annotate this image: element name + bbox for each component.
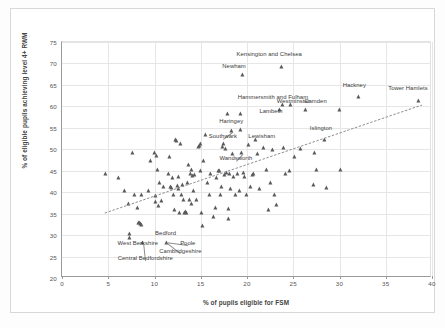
data-point-marker <box>176 187 180 191</box>
data-point-marker <box>416 99 420 103</box>
point-label: Kensington and Chelsea <box>237 51 302 57</box>
gridline-vertical <box>108 42 109 276</box>
data-point-marker <box>215 176 219 180</box>
data-point-marker <box>132 193 136 197</box>
scatter-chart: Kensington and ChelseaNewhamHackneyTower… <box>0 0 445 328</box>
data-point-marker <box>280 64 284 68</box>
point-label: Lewisham <box>248 133 275 139</box>
data-point-marker <box>248 184 252 188</box>
data-point-marker <box>168 154 172 158</box>
x-tick-label: 15 <box>197 280 204 287</box>
data-point-marker <box>221 142 225 146</box>
data-point-marker <box>156 167 160 171</box>
data-point-marker <box>179 142 183 146</box>
point-label: Wandsworth <box>219 155 252 161</box>
point-label: Bedford <box>155 230 176 236</box>
gridline-horizontal <box>62 85 430 86</box>
data-point-marker <box>281 146 285 150</box>
data-point-marker <box>252 172 256 176</box>
point-label: Hackney <box>343 82 366 88</box>
data-point-marker <box>202 159 206 163</box>
data-point-marker <box>235 172 239 176</box>
x-tick-mark <box>62 276 63 279</box>
data-point-marker <box>233 193 237 197</box>
data-point-marker <box>218 193 222 197</box>
data-point-marker <box>292 154 296 158</box>
data-point-marker <box>194 197 198 201</box>
y-tick-label: 45 <box>50 167 62 174</box>
y-tick-label: 70 <box>50 60 62 67</box>
data-point-marker <box>261 146 265 150</box>
point-label: Central Bedfordshire <box>118 255 173 261</box>
data-point-marker <box>204 133 208 137</box>
x-tick-label: 25 <box>290 280 297 287</box>
chart-frame: Kensington and ChelseaNewhamHackneyTower… <box>10 8 435 313</box>
data-point-marker <box>135 206 139 210</box>
x-tick-mark <box>340 276 341 279</box>
y-tick-label: 55 <box>50 124 62 131</box>
data-point-marker <box>270 148 274 152</box>
data-point-marker <box>159 199 163 203</box>
data-point-marker <box>339 167 343 171</box>
gridline-horizontal <box>62 214 430 215</box>
data-point-marker <box>356 94 360 98</box>
data-point-marker <box>226 216 230 220</box>
gridline-vertical <box>386 42 387 276</box>
y-tick-label: 50 <box>50 146 62 153</box>
data-point-marker <box>198 168 202 172</box>
data-point-marker <box>177 175 181 179</box>
data-point-marker <box>181 197 185 201</box>
data-point-marker <box>268 180 272 184</box>
point-label: West Berkshire <box>118 240 159 246</box>
data-point-marker <box>229 186 233 190</box>
data-point-marker <box>198 142 202 146</box>
data-point-marker <box>223 147 227 151</box>
x-tick-mark <box>432 276 433 279</box>
data-point-marker <box>265 167 269 171</box>
data-point-marker <box>170 176 174 180</box>
data-point-marker <box>117 176 121 180</box>
gridline-vertical <box>432 42 433 276</box>
data-point-marker <box>241 73 245 77</box>
data-point-marker <box>157 204 161 208</box>
data-point-marker <box>171 193 175 197</box>
x-tick-label: 20 <box>243 280 250 287</box>
data-point-marker <box>211 215 215 219</box>
data-point-marker <box>161 184 165 188</box>
data-point-marker <box>246 142 250 146</box>
point-label: Camden <box>304 98 327 104</box>
data-point-marker <box>243 175 247 179</box>
gridline-vertical <box>293 42 294 276</box>
gridline-horizontal <box>62 149 430 150</box>
x-tick-label: 35 <box>382 280 389 287</box>
data-point-marker <box>128 235 132 239</box>
data-point-marker <box>274 203 278 207</box>
data-point-marker <box>298 147 302 151</box>
data-point-marker <box>199 210 203 214</box>
data-point-marker <box>192 189 196 193</box>
data-point-marker <box>181 183 185 187</box>
data-point-marker <box>172 208 176 212</box>
gridline-horizontal <box>62 235 430 236</box>
data-point-marker <box>154 194 158 198</box>
y-tick-label: 40 <box>50 189 62 196</box>
plot-area: Kensington and ChelseaNewhamHackneyTower… <box>61 41 431 277</box>
x-tick-mark <box>386 276 387 279</box>
x-tick-mark <box>155 276 156 279</box>
gridline-horizontal <box>62 42 430 43</box>
y-tick-label: 75 <box>50 39 62 46</box>
x-tick-label: 0 <box>60 280 64 287</box>
data-point-marker <box>244 193 248 197</box>
data-point-marker <box>193 172 197 176</box>
data-point-marker <box>208 172 212 176</box>
data-point-marker <box>180 192 184 196</box>
data-point-marker <box>227 207 231 211</box>
y-tick-label: 25 <box>50 253 62 260</box>
x-tick-mark <box>108 276 109 279</box>
gridline-horizontal <box>62 128 430 129</box>
data-point-marker <box>313 151 317 155</box>
data-point-marker <box>169 185 173 189</box>
data-point-marker <box>304 107 308 111</box>
data-point-marker <box>148 159 152 163</box>
data-point-marker <box>174 138 178 142</box>
